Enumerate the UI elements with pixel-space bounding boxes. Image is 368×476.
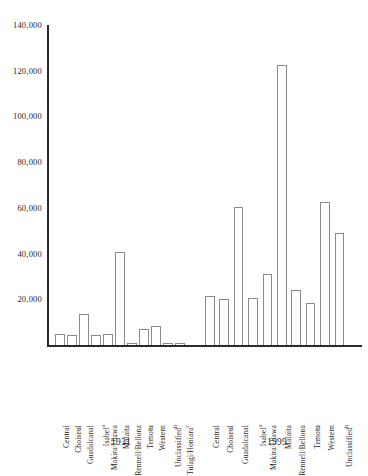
bar bbox=[151, 326, 161, 345]
bar bbox=[115, 252, 125, 345]
category-label: Guadalcanal bbox=[87, 425, 95, 464]
category-label: Unclassifiedb bbox=[342, 425, 354, 467]
group-label-1931: 1931 bbox=[111, 437, 131, 447]
category-label: Makira/Ulawa bbox=[270, 425, 278, 470]
bar bbox=[91, 335, 101, 345]
y-axis-tick-label: 120,000 bbox=[13, 66, 42, 76]
bar bbox=[55, 334, 65, 345]
category-label: Isabela bbox=[256, 425, 268, 446]
bar bbox=[277, 65, 287, 345]
bar bbox=[205, 296, 215, 345]
bar bbox=[306, 303, 316, 345]
scan-artifact-top: · bbox=[30, 0, 358, 12]
y-axis-tick-label: 140,000 bbox=[13, 20, 42, 30]
category-label: Tulagi/Honiarac bbox=[183, 425, 195, 475]
y-axis-tick-label: 80,000 bbox=[17, 157, 42, 167]
bar bbox=[79, 314, 89, 345]
bar bbox=[139, 329, 149, 345]
category-label: Guadalcanal bbox=[242, 425, 250, 464]
category-label: Choiseul bbox=[227, 425, 235, 453]
group-label-1999: 1999 bbox=[267, 437, 287, 447]
bar bbox=[248, 298, 258, 345]
y-axis-tick-label: 100,000 bbox=[13, 111, 42, 121]
y-axis-tick-label: 60,000 bbox=[17, 203, 42, 213]
bar bbox=[263, 274, 273, 345]
bar bbox=[219, 299, 229, 345]
y-axis-tick-label: 40,000 bbox=[17, 249, 42, 259]
bar bbox=[175, 343, 185, 345]
category-label: Central bbox=[213, 425, 221, 448]
category-label: Rennell/Bellona bbox=[299, 425, 307, 476]
category-axis-labels: CentralChoiseulGuadalcanalIsabelaMakira/… bbox=[47, 347, 362, 429]
category-label: Isabela bbox=[99, 425, 111, 446]
bar bbox=[234, 207, 244, 345]
category-label: Central bbox=[63, 425, 71, 448]
bar bbox=[291, 290, 301, 345]
category-label: Western bbox=[328, 425, 336, 450]
y-axis-labels: 140,000120,000100,00080,00060,00040,0002… bbox=[0, 0, 44, 464]
plot-area bbox=[47, 25, 362, 345]
bar bbox=[163, 343, 173, 346]
category-label: Temotu bbox=[147, 425, 155, 449]
bar bbox=[127, 343, 137, 346]
category-label: Unclassifiedb bbox=[171, 425, 183, 467]
category-label: Choiseul bbox=[75, 425, 83, 453]
bar-series-container bbox=[47, 25, 362, 345]
category-label: Western bbox=[159, 425, 167, 450]
category-label: Temotu bbox=[314, 425, 322, 449]
bar bbox=[67, 335, 77, 346]
y-axis-tick-label: 20,000 bbox=[17, 294, 42, 304]
bar bbox=[320, 202, 330, 345]
category-label: Makira/Ulawa bbox=[111, 425, 119, 470]
category-label: Rennell/Bellona bbox=[135, 425, 143, 476]
bar bbox=[335, 233, 345, 345]
bar bbox=[103, 334, 113, 345]
